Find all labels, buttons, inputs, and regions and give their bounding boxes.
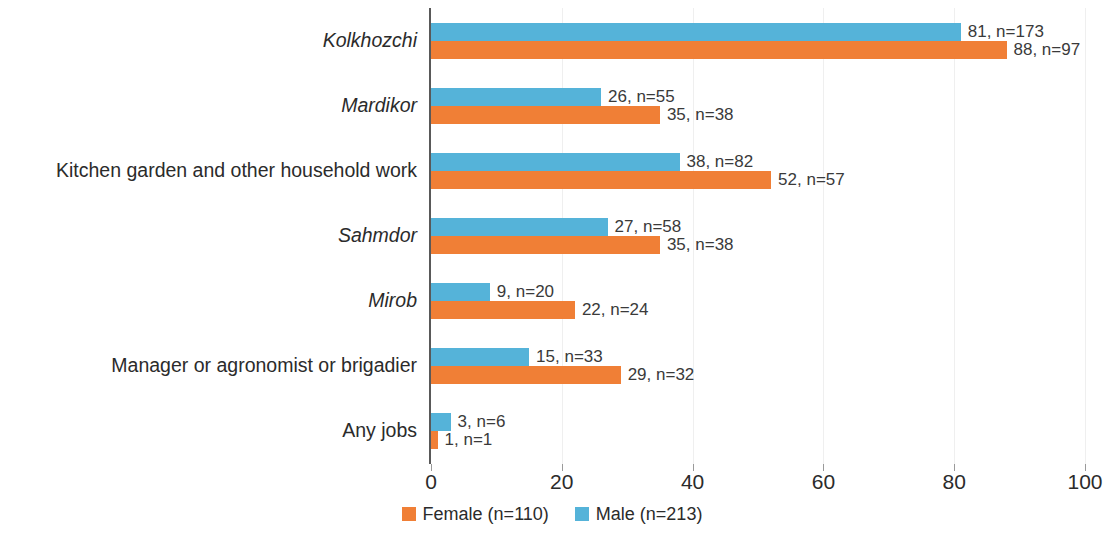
bar-male bbox=[431, 283, 490, 301]
legend-label: Male (n=213) bbox=[596, 505, 703, 523]
bar-value-label-female: 52, n=57 bbox=[778, 171, 845, 189]
bar-group: Kitchen garden and other household work3… bbox=[431, 138, 1085, 203]
bar-female bbox=[431, 236, 660, 254]
bar-female bbox=[431, 171, 771, 189]
bar-value-label-male: 26, n=55 bbox=[608, 88, 675, 106]
legend-label: Female (n=110) bbox=[423, 505, 549, 523]
x-axis-tick-label: 100 bbox=[1067, 471, 1102, 492]
x-axis-tick-label: 20 bbox=[550, 471, 573, 492]
plot-area: Kolkhozchi81, n=17388, n=97Mardikor26, n… bbox=[431, 8, 1085, 464]
bar-value-label-male: 81, n=173 bbox=[968, 23, 1044, 41]
bar-female bbox=[431, 366, 621, 384]
bar-male bbox=[431, 413, 451, 431]
legend-item[interactable]: Female (n=110) bbox=[402, 505, 549, 523]
bar-value-label-male: 9, n=20 bbox=[497, 283, 554, 301]
bar-chart: Kolkhozchi81, n=17388, n=97Mardikor26, n… bbox=[0, 0, 1104, 539]
bar-male bbox=[431, 153, 680, 171]
legend-item[interactable]: Male (n=213) bbox=[575, 505, 703, 523]
bar-male bbox=[431, 88, 601, 106]
bar-female bbox=[431, 41, 1007, 59]
category-label: Any jobs bbox=[342, 421, 417, 441]
bar-group: Mardikor26, n=5535, n=38 bbox=[431, 73, 1085, 138]
bar-male bbox=[431, 218, 608, 236]
bar-male bbox=[431, 23, 961, 41]
bar-female bbox=[431, 106, 660, 124]
category-label: Mardikor bbox=[341, 96, 417, 116]
category-label: Kitchen garden and other household work bbox=[56, 161, 417, 181]
x-axis-tick-label: 40 bbox=[681, 471, 704, 492]
bar-group: Sahmdor27, n=5835, n=38 bbox=[431, 203, 1085, 268]
bar-value-label-female: 29, n=32 bbox=[628, 366, 695, 384]
bar-value-label-female: 22, n=24 bbox=[582, 301, 649, 319]
x-axis-tick-label: 60 bbox=[812, 471, 835, 492]
x-axis-tick-label: 80 bbox=[943, 471, 966, 492]
gridline bbox=[1085, 8, 1086, 464]
category-label: Sahmdor bbox=[338, 226, 417, 246]
category-label: Kolkhozchi bbox=[323, 31, 417, 51]
bar-value-label-female: 88, n=97 bbox=[1014, 41, 1081, 59]
bar-female bbox=[431, 301, 575, 319]
bar-group: Any jobs3, n=61, n=1 bbox=[431, 399, 1085, 464]
bar-value-label-female: 1, n=1 bbox=[445, 431, 493, 449]
bar-female bbox=[431, 431, 438, 449]
bar-group: Manager or agronomist or brigadier15, n=… bbox=[431, 334, 1085, 399]
bar-value-label-female: 35, n=38 bbox=[667, 236, 734, 254]
chart-legend: Female (n=110)Male (n=213) bbox=[0, 505, 1104, 523]
category-label: Mirob bbox=[368, 291, 417, 311]
bar-male bbox=[431, 348, 529, 366]
x-axis-tick-label: 0 bbox=[425, 471, 437, 492]
legend-swatch-female bbox=[402, 507, 416, 521]
bar-value-label-male: 27, n=58 bbox=[615, 218, 682, 236]
bar-value-label-male: 38, n=82 bbox=[687, 153, 754, 171]
bar-value-label-male: 15, n=33 bbox=[536, 348, 603, 366]
bar-value-label-female: 35, n=38 bbox=[667, 106, 734, 124]
bar-group: Kolkhozchi81, n=17388, n=97 bbox=[431, 8, 1085, 73]
bar-value-label-male: 3, n=6 bbox=[458, 413, 506, 431]
category-label: Manager or agronomist or brigadier bbox=[111, 356, 417, 376]
legend-swatch-male bbox=[575, 507, 589, 521]
bar-group: Mirob9, n=2022, n=24 bbox=[431, 269, 1085, 334]
